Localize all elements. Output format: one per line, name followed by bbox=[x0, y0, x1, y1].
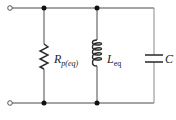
inductor-label: Leq bbox=[106, 52, 121, 68]
resistor-icon bbox=[40, 8, 48, 103]
junction-dot-top-left bbox=[42, 6, 47, 11]
junction-dot-top-right bbox=[95, 6, 100, 11]
junction-dot-bottom-left bbox=[42, 101, 47, 106]
resistor-label: Rp(eq) bbox=[53, 52, 79, 68]
capacitor-label: C bbox=[165, 52, 174, 66]
terminal-top bbox=[8, 6, 13, 11]
capacitor-icon bbox=[145, 55, 163, 62]
circuit-diagram: Rp(eq) Leq C bbox=[0, 0, 176, 120]
terminal-bottom bbox=[8, 101, 13, 106]
junction-dot-bottom-right bbox=[95, 101, 100, 106]
inductor-icon bbox=[93, 8, 102, 103]
